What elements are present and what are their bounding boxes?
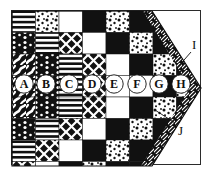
callout-label-B: B (42, 77, 50, 91)
grid-cell-horizontal-lines (36, 33, 60, 55)
grid-cell-solid-black (106, 119, 130, 141)
callout-label-G: G (154, 77, 163, 91)
grid-cell-solid-black (153, 162, 177, 178)
grid-cell-vertical-dots (36, 54, 60, 76)
grid-cell-solid-white (106, 97, 130, 119)
grid-cell-solid-black (177, 33, 201, 55)
grid-cell-solid-black (59, 162, 83, 178)
grid-cell-horizontal-lines (59, 54, 83, 76)
grid-cell-diagonal-lattice (59, 33, 83, 55)
figure-canvas: ABCDEFGH (0, 0, 213, 177)
grid-cell-solid-black (177, 11, 201, 33)
grid-cell-horizontal-lines (12, 11, 36, 33)
grid-cell-vertical-dots (12, 119, 36, 141)
grid-cell-solid-black (130, 54, 154, 76)
figure-root: ABCDEFGH IJ (0, 0, 213, 177)
callout-label-H: H (176, 77, 186, 91)
grid-cell-diagonal-lattice (12, 162, 36, 178)
grid-cell-vertical-dots (12, 33, 36, 55)
pattern-grid (12, 11, 200, 177)
grid-cell-horizontal-lines (12, 140, 36, 162)
grid-cell-speckle-dots (130, 119, 154, 141)
grid-cell-solid-white (36, 162, 60, 178)
grid-cell-solid-white (59, 140, 83, 162)
callout-label-C: C (65, 77, 74, 91)
grid-cell-solid-white (83, 33, 107, 55)
grid-cell-solid-white (106, 54, 130, 76)
grid-cell-horizontal-lines (36, 119, 60, 141)
leader-label-J: J (178, 124, 183, 137)
grid-cell-speckle-dots (106, 11, 130, 33)
grid-cell-solid-white (83, 119, 107, 141)
grid-cell-solid-white (59, 11, 83, 33)
grid-cell-marble-swirl (12, 54, 36, 76)
callout-label-D: D (88, 77, 97, 91)
grid-cell-solid-black (177, 162, 201, 178)
grid-cell-vertical-dots (36, 97, 60, 119)
callout-label-A: A (20, 77, 29, 91)
grid-cell-solid-black (130, 97, 154, 119)
grid-cell-speckle-dots (36, 11, 60, 33)
grid-cell-horizontal-lines (59, 97, 83, 119)
grid-cell-speckle-dots (130, 33, 154, 55)
leader-label-I: I (192, 38, 196, 51)
grid-cell-solid-black (106, 33, 130, 55)
callout-label-F: F (133, 77, 140, 91)
grid-cell-solid-black (83, 140, 107, 162)
grid-cell-solid-black (177, 140, 201, 162)
grid-cell-diagonal-lattice (36, 140, 60, 162)
grid-cell-solid-black (83, 11, 107, 33)
grid-cell-speckle-dots (83, 162, 107, 178)
callout-label-E: E (110, 77, 118, 91)
grid-cell-marble-swirl (12, 97, 36, 119)
grid-cell-speckle-dots (106, 140, 130, 162)
grid-cell-diagonal-lattice (83, 54, 107, 76)
grid-cell-solid-black (106, 162, 130, 178)
grid-cell-diagonal-lattice (59, 119, 83, 141)
grid-cell-diagonal-lattice (83, 97, 107, 119)
